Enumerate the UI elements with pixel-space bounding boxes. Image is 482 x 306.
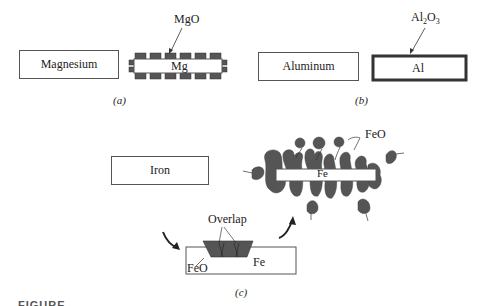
mgo-label: MgO (174, 12, 199, 27)
iron-label: Iron (150, 163, 170, 178)
magnesium-label: Magnesium (41, 57, 98, 72)
fe-spalled-label: Fe (317, 167, 328, 179)
al-label: Al (412, 61, 424, 76)
caption-a: (a) (113, 94, 126, 106)
feo-wedge (203, 241, 253, 257)
aluminum-label: Aluminum (282, 59, 334, 74)
overlap-label: Overlap (208, 212, 247, 227)
figure-caption-clipped: FIGURE (18, 300, 138, 306)
aluminum-box: Aluminum (258, 52, 359, 81)
magnesium-box: Magnesium (19, 50, 119, 79)
al2o3-pointer (412, 28, 425, 51)
feo-spalled-label: FeO (365, 127, 386, 142)
al2o3-label: Al2O3 (411, 10, 440, 26)
fe-small-label: Fe (253, 255, 265, 270)
mgo-pointer (171, 28, 182, 51)
mg-label: Mg (171, 59, 188, 74)
feo-small-label: FeO (187, 261, 208, 276)
caption-b: (b) (355, 94, 368, 106)
caption-c: (c) (235, 286, 247, 298)
diagram-graphics (0, 0, 482, 306)
iron-box: Iron (111, 156, 209, 185)
